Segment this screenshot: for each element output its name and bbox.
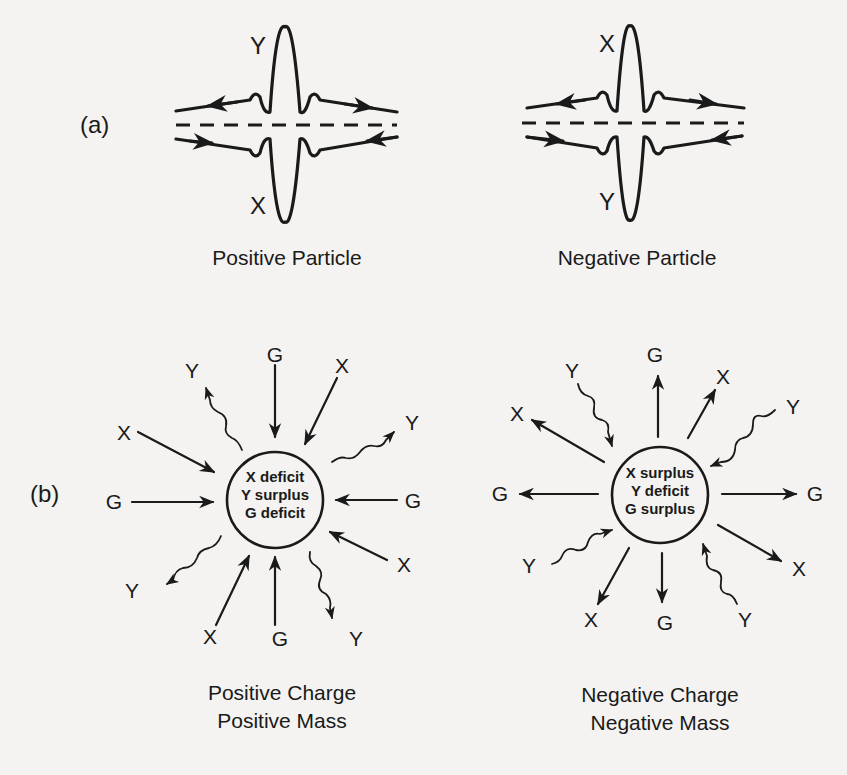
pos-ray-label-x-topright: X [335, 354, 349, 377]
positive-charge-caption-1: Positive Charge [208, 681, 356, 704]
pos-ray-label-y-topleft: Y [185, 359, 199, 382]
neg-ray-label-x-topright: X [716, 365, 730, 388]
pos-ray-label-g-right: G [405, 489, 421, 512]
negative-particle-caption: Negative Particle [558, 246, 717, 269]
positive-particle-top-label: Y [250, 32, 266, 59]
neg-ray-label-x-topleft: X [510, 402, 524, 425]
pos-ray-label-g-top: G [267, 343, 283, 366]
pos-ray-label-x-bottomright: X [397, 553, 411, 576]
negative-particle-wave [522, 26, 744, 221]
positive-particle-wave [176, 27, 397, 223]
neg-ray-label-g-top: G [647, 343, 663, 366]
pos-ray-label-x-topleft: X [117, 421, 131, 444]
neg-ray-label-y-right: Y [786, 395, 800, 418]
negative-charge-caption-2: Negative Mass [591, 711, 730, 734]
negative-center-line-3: G surplus [625, 500, 695, 517]
neg-ray-label-g-bottom: G [657, 611, 673, 634]
positive-center-line-3: G deficit [245, 504, 305, 521]
negative-particle-bottom-label: Y [599, 188, 615, 215]
diagram-canvas: (a) Y X Positive Particle X Y Negative P… [0, 0, 847, 775]
neg-ray-label-g-left: G [492, 482, 508, 505]
pos-ray-label-y-bottomleft: Y [125, 579, 139, 602]
pos-ray-label-y-bottomright: Y [349, 627, 363, 650]
positive-charge-node: X deficit Y surplus G deficit [227, 452, 323, 548]
positive-particle-bottom-label: X [250, 192, 266, 219]
pos-ray-label-g-bottom: G [272, 627, 288, 650]
positive-charge-caption-2: Positive Mass [217, 709, 347, 732]
negative-particle-top-label: X [599, 30, 615, 57]
positive-center-line-1: X deficit [246, 468, 304, 485]
positive-center-line-2: Y surplus [241, 486, 309, 503]
pos-ray-label-y-right: Y [405, 411, 419, 434]
panel-b-label: (b) [30, 480, 59, 507]
positive-particle-caption: Positive Particle [212, 246, 361, 269]
neg-ray-label-x-bottomleft: X [584, 608, 598, 631]
negative-center-line-2: Y deficit [631, 482, 689, 499]
neg-ray-label-y-bottomright: Y [738, 608, 752, 631]
neg-ray-label-y-bottomleft: Y [522, 554, 536, 577]
negative-charge-node: X surplus Y deficit G surplus [612, 447, 708, 543]
negative-charge-caption-1: Negative Charge [581, 683, 739, 706]
neg-ray-label-x-bottomright: X [792, 557, 806, 580]
neg-ray-label-g-right: G [807, 482, 823, 505]
panel-a-label: (a) [80, 111, 109, 138]
pos-ray-label-g-left: G [106, 490, 122, 513]
neg-ray-label-y-topleft: Y [565, 359, 579, 382]
pos-ray-label-x-bottomleft: X [203, 625, 217, 648]
negative-center-line-1: X surplus [626, 464, 694, 481]
